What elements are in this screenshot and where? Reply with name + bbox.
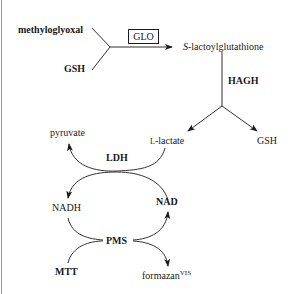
- formazan-label: formazanVIS: [142, 268, 191, 281]
- pathway-diagram: methyloglyoxal GSH GLO S-lactoylglutathi…: [0, 0, 293, 294]
- nad-label: NAD: [156, 196, 178, 207]
- nadh-to-pms-line: [68, 218, 103, 240]
- mtt-to-pms-line: [68, 241, 103, 263]
- methylglyoxal-line: [92, 28, 110, 47]
- methylglyoxal-label: methyloglyoxal: [18, 24, 83, 35]
- s-lactoylglutathione-label: S-lactoylglutathione: [183, 41, 264, 52]
- to-lactate-arrow: [188, 106, 222, 131]
- pms-to-formazan-arrow: [133, 241, 168, 266]
- to-gsh-arrow: [222, 106, 257, 131]
- s-lactoyl-text: -lactoylglutathione: [188, 41, 264, 52]
- gsh-output-label: GSH: [257, 135, 277, 146]
- nad-to-nadh-arrow: [68, 172, 168, 200]
- pms-label: PMS: [106, 235, 127, 246]
- ldh-enzyme-label: LDH: [106, 152, 128, 163]
- l-lactate-label: L-lactate: [150, 135, 184, 147]
- mtt-label: MTT: [55, 266, 78, 277]
- lactate-text: -lactate: [155, 135, 184, 146]
- pms-to-nad-arrow: [133, 212, 168, 240]
- gsh-input-label: GSH: [64, 63, 85, 74]
- formazan-text: formazan: [142, 270, 180, 281]
- gsh-line: [92, 47, 110, 70]
- pyruvate-label: pyruvate: [50, 127, 85, 138]
- hagh-enzyme-label: HAGH: [228, 75, 259, 86]
- formazan-superscript: VIS: [180, 269, 191, 277]
- glo-enzyme-box: GLO: [128, 29, 159, 44]
- nadh-label: NADH: [52, 202, 81, 213]
